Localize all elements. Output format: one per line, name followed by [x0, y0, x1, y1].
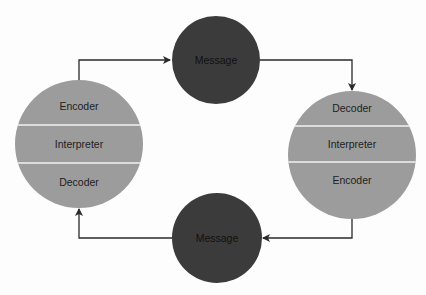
left-section-3: Decoder [59, 176, 99, 188]
bottom-message-circle: Message [172, 193, 262, 283]
top-message-circle: Message [172, 16, 260, 104]
right-section-1: Decoder [332, 102, 372, 114]
left-section-1: Encoder [59, 100, 99, 112]
connector-bottom-message-to-left [79, 209, 172, 238]
left-participant-circle: Encoder Interpreter Decoder [10, 80, 150, 208]
left-section-2: Interpreter [55, 138, 104, 150]
connector-top-message-to-right [260, 60, 352, 90]
right-section-2: Interpreter [328, 138, 377, 150]
right-participant-circle: Decoder Interpreter Encoder [280, 91, 420, 219]
connector-right-to-bottom-message [263, 219, 352, 238]
top-message-label: Message [195, 54, 238, 66]
connector-left-to-top-message [79, 60, 170, 80]
right-section-3: Encoder [332, 174, 372, 186]
communication-diagram: Encoder Interpreter Decoder Decoder Inte… [0, 0, 426, 295]
bottom-message-label: Message [196, 232, 239, 244]
